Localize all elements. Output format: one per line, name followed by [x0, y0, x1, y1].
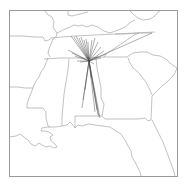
border-mississippi-river-north: [45, 11, 57, 57]
border-georgia-florida: [102, 96, 152, 121]
ray-line: [89, 61, 97, 110]
border-arkansas-louisiana: [10, 87, 33, 88]
border-gulf-coast-mississippi-alabama: [50, 122, 141, 176]
border-tennessee-north-carolina: [104, 33, 139, 57]
border-gulf-coast-west: [10, 127, 57, 148]
border-mississippi-alabama: [62, 59, 69, 126]
state-borders: [10, 11, 177, 176]
border-arkansas-mississippi: [33, 58, 48, 88]
border-tennessee-south: [44, 57, 127, 59]
southeast-us-map: [0, 0, 189, 186]
border-florida-atlantic: [152, 120, 175, 176]
border-south-carolina-coast: [152, 68, 177, 96]
border-missouri-arkansas: [10, 36, 51, 41]
border-north-carolina-south-carolina: [127, 52, 177, 68]
connection-rays: [68, 33, 152, 118]
map-container: [0, 0, 189, 186]
border-alabama-florida: [75, 116, 102, 128]
border-virginia-north: [130, 11, 160, 20]
ray-line: [85, 61, 89, 90]
border-mississippi-louisiana: [27, 88, 50, 127]
border-virginia-kentucky: [98, 20, 135, 33]
border-illinois-indiana: [68, 11, 88, 16]
border-ohio-river: [57, 25, 98, 33]
border-south-carolina-georgia: [128, 58, 152, 95]
